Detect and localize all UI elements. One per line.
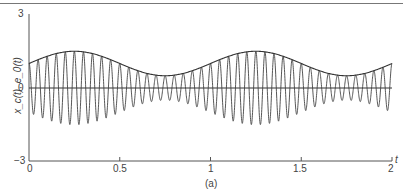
x-axis-label: t <box>395 154 398 165</box>
y-tick-3: 3 <box>18 8 24 19</box>
x-tick-1: 1 <box>208 163 214 174</box>
x-tick-2: 2 <box>388 163 394 174</box>
y-tick-minus3: −3 <box>14 155 25 166</box>
envelope-curve <box>29 51 392 76</box>
x-tick-1.5: 1.5 <box>293 163 307 174</box>
am-signal-plot <box>0 0 403 195</box>
x-tick-0.5: 0.5 <box>113 163 127 174</box>
x-tick-0: 0 <box>27 163 33 174</box>
y-axis-label: x_c(t), e_0(t) <box>12 51 23 121</box>
figure-caption: (a) <box>205 178 217 189</box>
x-ticks <box>120 157 392 161</box>
